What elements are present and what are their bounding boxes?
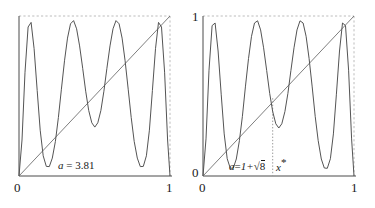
right-panel-value-base: 1+ <box>241 160 254 172</box>
left-panel-xtick-0: 0 <box>14 181 21 194</box>
left-panel-xtick-1: 1 <box>166 181 173 194</box>
right-panel-xtick-0: 0 <box>199 181 206 194</box>
figure-two-panel-logistic-map: 0 1 a = 3.81 1 0 0 1 a=1+√8 x <box>0 0 375 208</box>
right-panel-parameter-annotation: a=1+√8 <box>229 160 265 172</box>
panel-right: 1 0 0 1 a=1+√8 x* <box>188 0 375 208</box>
right-panel-xtick-1: 1 <box>351 181 358 194</box>
right-panel-ytick-0: 0 <box>192 166 199 179</box>
right-panel-ytick-1: 1 <box>192 10 199 23</box>
curve-third-iterate-left-panel <box>19 21 170 176</box>
left-panel-parameter-value: 3.81 <box>75 159 94 171</box>
panel-left: 0 1 a = 3.81 <box>0 0 187 208</box>
left-panel-parameter-annotation: a = 3.81 <box>58 159 94 171</box>
right-panel-sqrt-group: √8 <box>254 160 266 172</box>
vinculum-overbar <box>261 160 266 161</box>
diagonal-line-left-panel <box>19 16 170 176</box>
x-star-superscript: * <box>281 156 287 168</box>
left-panel-parameter-name: a <box>58 159 64 171</box>
plot-left-svg <box>0 0 187 208</box>
curve-third-iterate-right-panel <box>203 21 354 176</box>
left-panel-equals-sign: = <box>66 159 72 171</box>
plot-right-svg <box>188 0 375 208</box>
right-panel-radicand: 8 <box>260 160 266 172</box>
x-star-label: x* <box>276 161 286 173</box>
